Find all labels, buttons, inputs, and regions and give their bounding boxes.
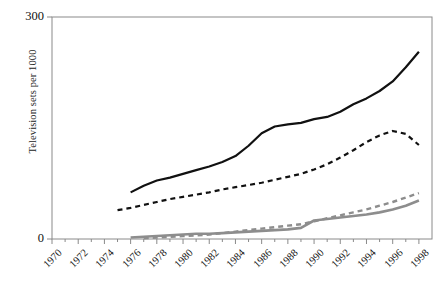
series-line-gray-dashed <box>144 193 419 238</box>
series-line-black-solid <box>131 52 419 193</box>
chart-plot-area <box>0 0 446 282</box>
chart-container: Television sets per 1000 030019701972197… <box>0 0 446 282</box>
y-axis-title: Television sets per 1000 <box>27 22 38 182</box>
plot-frame <box>52 17 432 239</box>
y-tick-label: 0 <box>0 231 44 246</box>
y-tick-label: 300 <box>0 9 44 24</box>
series-line-black-dashed <box>118 131 419 210</box>
